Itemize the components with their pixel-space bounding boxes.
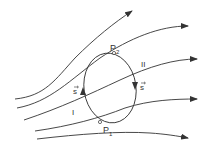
streamline-1 [15, 11, 132, 99]
contour-arrow-right-icon [132, 82, 138, 90]
streamline-2 [17, 26, 188, 108]
streamline-diagram: P 2 P 1 II I s s [0, 0, 207, 147]
label-p2-sub: 2 [116, 49, 120, 55]
label-region-1: I [72, 108, 74, 117]
streamline-5 [37, 132, 188, 139]
closed-contour [79, 50, 140, 127]
label-p1-sub: 1 [109, 131, 113, 137]
contour-arrow-left-icon [80, 87, 86, 95]
point-p1 [98, 120, 101, 123]
label-s-left: s [73, 87, 77, 96]
label-s-right: s [140, 83, 144, 92]
streamline-3 [24, 59, 197, 120]
streamline-4 [35, 99, 197, 131]
label-region-2: II [141, 60, 145, 69]
